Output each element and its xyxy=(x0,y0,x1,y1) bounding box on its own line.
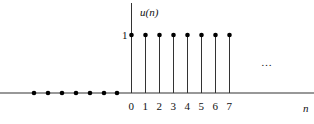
y-tick-one: 1 xyxy=(122,29,128,41)
positive-sample-dots xyxy=(129,33,232,38)
stem-plot: u(n) 1 … n 0 1 2 3 4 5 6 7 xyxy=(0,0,314,124)
unit-step-diagram: u(n) 1 … n 0 1 2 3 4 5 6 7 xyxy=(0,0,314,124)
x-tick: 1 xyxy=(143,100,149,112)
x-tick: 3 xyxy=(171,100,177,112)
x-tick-labels: 0 1 2 3 4 5 6 7 xyxy=(129,100,233,112)
ellipsis: … xyxy=(261,56,272,68)
positive-stems xyxy=(132,35,230,93)
x-tick: 2 xyxy=(157,100,163,112)
x-tick: 6 xyxy=(213,100,219,112)
y-axis-label: u(n) xyxy=(140,6,159,19)
x-tick: 5 xyxy=(199,100,205,112)
x-tick: 0 xyxy=(129,100,135,112)
x-axis-label: n xyxy=(303,102,309,114)
x-tick: 4 xyxy=(185,100,191,112)
x-tick: 7 xyxy=(227,100,233,112)
